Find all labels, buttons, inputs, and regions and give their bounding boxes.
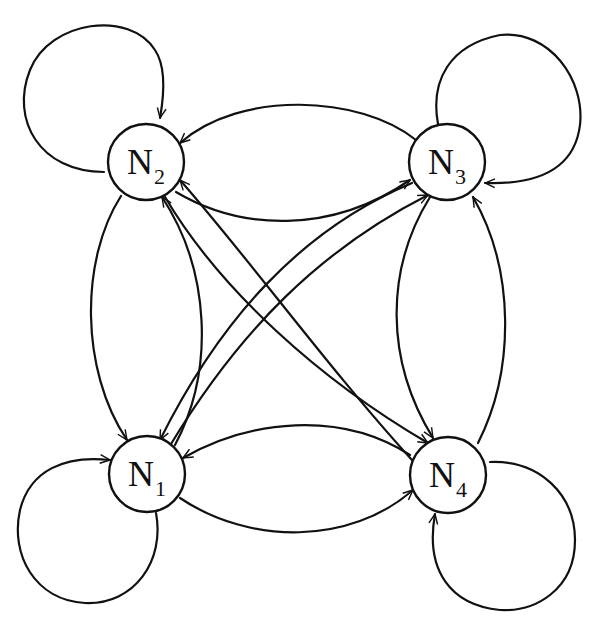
edge-N4-N3 bbox=[473, 197, 505, 443]
edge-N1-N2 bbox=[162, 197, 202, 445]
node-N1-circle bbox=[109, 436, 185, 512]
node-N4-circle bbox=[410, 437, 486, 513]
edge-N2-N4 bbox=[165, 197, 428, 443]
edge-N3-N4 bbox=[397, 197, 433, 438]
edge-N3-N2 bbox=[180, 105, 416, 143]
edge-N4-N2 bbox=[180, 180, 412, 460]
node-N2-circle bbox=[108, 124, 184, 200]
node-N3-circle bbox=[409, 124, 485, 200]
edge-N1-N3 bbox=[171, 195, 428, 444]
edge-N4-N1 bbox=[183, 425, 410, 458]
graph-diagram bbox=[0, 0, 593, 625]
edge-N1-N4 bbox=[180, 490, 413, 532]
edge-N2-N1 bbox=[91, 196, 127, 440]
